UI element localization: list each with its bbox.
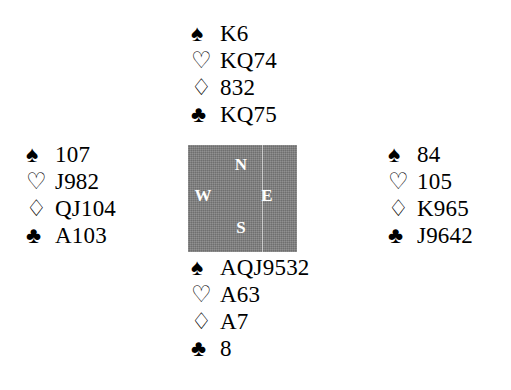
compass-label-north: N xyxy=(230,156,252,173)
hand-east-clubs-row: ♣ J9642 xyxy=(388,224,473,251)
hand-north-clubs: KQ75 xyxy=(215,103,277,126)
diamond-icon: ♢ xyxy=(26,197,50,220)
hand-north: ♠ K6 ♡ KQ74 ♢ 832 ♣ KQ75 xyxy=(191,22,277,130)
hand-west-hearts-row: ♡ J982 xyxy=(26,170,116,197)
diamond-icon: ♢ xyxy=(388,197,412,220)
heart-icon: ♡ xyxy=(191,283,215,306)
spade-icon: ♠ xyxy=(191,22,215,45)
hand-north-diamonds-row: ♢ 832 xyxy=(191,76,277,103)
hand-east-diamonds: K965 xyxy=(412,197,469,220)
club-icon: ♣ xyxy=(388,224,412,247)
hand-south-hearts-row: ♡ A63 xyxy=(191,283,310,310)
spade-icon: ♠ xyxy=(388,143,412,166)
heart-icon: ♡ xyxy=(26,170,50,193)
diamond-icon: ♢ xyxy=(191,310,215,333)
hand-west: ♠ 107 ♡ J982 ♢ QJ104 ♣ A103 xyxy=(26,143,116,251)
hand-east-clubs: J9642 xyxy=(412,224,473,247)
hand-north-spades: K6 xyxy=(215,22,249,45)
hand-east-diamonds-row: ♢ K965 xyxy=(388,197,473,224)
hand-west-clubs: A103 xyxy=(50,224,107,247)
diamond-icon: ♢ xyxy=(191,76,215,99)
hand-east-spades-row: ♠ 84 xyxy=(388,143,473,170)
hand-south-spades-row: ♠ AQJ9532 xyxy=(191,256,310,283)
hand-west-spades: 107 xyxy=(50,143,90,166)
compass-label-south: S xyxy=(230,219,252,236)
hand-east-hearts: 105 xyxy=(412,170,452,193)
hand-south: ♠ AQJ9532 ♡ A63 ♢ A7 ♣ 8 xyxy=(191,256,310,364)
hand-west-diamonds: QJ104 xyxy=(50,197,116,220)
hand-north-hearts: KQ74 xyxy=(215,49,277,72)
hand-south-clubs: 8 xyxy=(215,337,232,360)
spade-icon: ♠ xyxy=(26,143,50,166)
club-icon: ♣ xyxy=(191,103,215,126)
hand-west-spades-row: ♠ 107 xyxy=(26,143,116,170)
heart-icon: ♡ xyxy=(388,170,412,193)
hand-south-hearts: A63 xyxy=(215,283,260,306)
club-icon: ♣ xyxy=(26,224,50,247)
hand-north-hearts-row: ♡ KQ74 xyxy=(191,49,277,76)
compass-box: N W E S xyxy=(188,145,297,252)
compass-label-west: W xyxy=(192,187,214,204)
bridge-hand-diagram: ♠ K6 ♡ KQ74 ♢ 832 ♣ KQ75 ♠ 107 ♡ J982 ♢ … xyxy=(0,0,511,390)
hand-south-diamonds-row: ♢ A7 xyxy=(191,310,310,337)
hand-west-diamonds-row: ♢ QJ104 xyxy=(26,197,116,224)
hand-north-diamonds: 832 xyxy=(215,76,255,99)
hand-north-clubs-row: ♣ KQ75 xyxy=(191,103,277,130)
hand-west-clubs-row: ♣ A103 xyxy=(26,224,116,251)
hand-north-spades-row: ♠ K6 xyxy=(191,22,277,49)
hand-east-spades: 84 xyxy=(412,143,440,166)
hand-south-diamonds: A7 xyxy=(215,310,249,333)
hand-south-spades: AQJ9532 xyxy=(215,256,310,279)
heart-icon: ♡ xyxy=(191,49,215,72)
hand-south-clubs-row: ♣ 8 xyxy=(191,337,310,364)
spade-icon: ♠ xyxy=(191,256,215,279)
hand-east: ♠ 84 ♡ 105 ♢ K965 ♣ J9642 xyxy=(388,143,473,251)
hand-west-hearts: J982 xyxy=(50,170,99,193)
hand-east-hearts-row: ♡ 105 xyxy=(388,170,473,197)
compass-label-east: E xyxy=(256,187,278,204)
club-icon: ♣ xyxy=(191,337,215,360)
